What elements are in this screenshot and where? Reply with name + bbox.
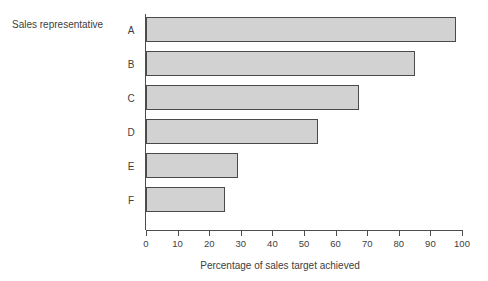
bar-row: E (146, 153, 462, 178)
bar-c (146, 85, 359, 110)
x-tick-label: 70 (362, 238, 373, 249)
bar-chart: Sales representative 0102030405060708090… (0, 0, 488, 281)
bar-b (146, 51, 415, 76)
x-tick-label: 0 (143, 238, 148, 249)
bar-row: F (146, 187, 462, 212)
y-axis-title: Sales representative (12, 19, 103, 30)
bar-row: C (146, 85, 462, 110)
category-label-e: E (124, 160, 138, 171)
bar-a (146, 17, 456, 42)
bar-d (146, 119, 318, 144)
category-label-d: D (124, 126, 138, 137)
x-tick-mark (462, 231, 463, 236)
bar-f (146, 187, 225, 212)
x-axis-title: Percentage of sales target achieved (0, 260, 488, 271)
bar-row: B (146, 51, 462, 76)
category-label-c: C (124, 92, 138, 103)
x-tick-label: 60 (330, 238, 341, 249)
category-label-f: F (124, 194, 138, 205)
x-tick-mark (146, 231, 147, 236)
x-tick-mark (367, 231, 368, 236)
x-tick-label: 80 (394, 238, 405, 249)
bar-row: A (146, 17, 462, 42)
x-tick-mark (399, 231, 400, 236)
x-tick-label: 100 (454, 238, 470, 249)
x-tick-mark (241, 231, 242, 236)
x-tick-label: 90 (425, 238, 436, 249)
x-tick-mark (272, 231, 273, 236)
x-tick-label: 10 (172, 238, 183, 249)
bar-e (146, 153, 238, 178)
category-label-a: A (124, 24, 138, 35)
x-tick-mark (336, 231, 337, 236)
x-tick-label: 20 (204, 238, 215, 249)
x-tick-label: 40 (267, 238, 278, 249)
bar-row: D (146, 119, 462, 144)
x-tick-label: 30 (236, 238, 247, 249)
x-tick-mark (178, 231, 179, 236)
x-tick-mark (430, 231, 431, 236)
x-tick-label: 50 (299, 238, 310, 249)
x-tick-mark (209, 231, 210, 236)
x-tick-mark (304, 231, 305, 236)
category-label-b: B (124, 58, 138, 69)
